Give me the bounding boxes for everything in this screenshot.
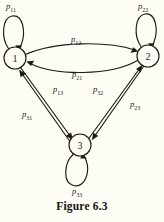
edge-label-p22: p22 bbox=[138, 1, 148, 13]
p11-sub: 11 bbox=[10, 7, 16, 13]
node-1-label: 1 bbox=[13, 53, 18, 64]
edge-p13 bbox=[21, 68, 73, 140]
edge-label-p32: p32 bbox=[93, 84, 103, 96]
edge-p33 bbox=[66, 153, 88, 186]
p32-sub: 32 bbox=[97, 90, 103, 96]
edge-1-to-3-path bbox=[21, 68, 71, 137]
p22-sub: 22 bbox=[142, 7, 148, 13]
node-2-label: 2 bbox=[146, 51, 151, 62]
self-loop-node1-path bbox=[4, 16, 24, 50]
edge-p12 bbox=[26, 44, 139, 55]
edge-p31 bbox=[19, 70, 70, 142]
node-2[interactable]: 2 bbox=[137, 45, 159, 67]
self-loop-node3-path bbox=[66, 155, 88, 186]
edge-label-p13: p13 bbox=[53, 84, 63, 96]
edge-label-p31: p31 bbox=[22, 109, 32, 121]
edge-2-to-1-path bbox=[30, 61, 138, 73]
edge-label-p21: p21 bbox=[72, 69, 82, 81]
node-3-label: 3 bbox=[78, 140, 83, 151]
p13-sub: 13 bbox=[57, 90, 63, 96]
node-1[interactable]: 1 bbox=[4, 47, 26, 69]
edge-label-p23: p23 bbox=[130, 99, 140, 111]
p23-sub: 23 bbox=[134, 105, 140, 111]
p12-sub: 12 bbox=[75, 40, 81, 46]
figure-container: 1 2 3 p11 p22 p12 p21 p13 p31 p32 p23 p3… bbox=[0, 0, 164, 222]
figure-caption: Figure 6.3 bbox=[0, 200, 164, 212]
node-3[interactable]: 3 bbox=[69, 134, 91, 156]
edge-p11 bbox=[4, 16, 24, 51]
p31-sub: 31 bbox=[26, 115, 32, 121]
p21-sub: 21 bbox=[76, 75, 82, 81]
self-loop-node2-path bbox=[136, 14, 156, 48]
edge-label-p33: p33 bbox=[72, 186, 82, 198]
edge-p22 bbox=[136, 14, 156, 49]
p33-sub: 33 bbox=[76, 192, 82, 198]
edge-label-p11: p11 bbox=[6, 1, 16, 13]
edge-label-p12: p12 bbox=[71, 34, 81, 46]
